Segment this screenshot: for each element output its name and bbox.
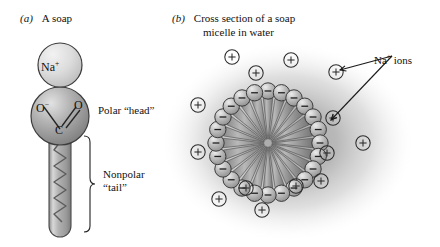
tail-brace <box>84 136 95 232</box>
figure-artwork <box>0 0 440 247</box>
sodium-ions-label: Na+ ions <box>374 51 412 66</box>
nonpolar-tail <box>49 140 71 237</box>
cation-label: Na+ <box>41 58 59 73</box>
soap-micelle-figure: (a)A soap (b)Cross section of a soap mic… <box>0 0 440 247</box>
atom-label-c: C <box>55 124 63 136</box>
micelle-head-group <box>246 85 262 101</box>
atom-label-o-left: O− <box>36 99 49 114</box>
nonpolar-tail-label-line1: Nonpolar <box>103 168 145 180</box>
polar-head-label: Polar “head” <box>98 104 155 116</box>
atom-label-o-right: O <box>74 99 83 111</box>
nonpolar-tail-label-line2: “tail” <box>103 181 127 193</box>
